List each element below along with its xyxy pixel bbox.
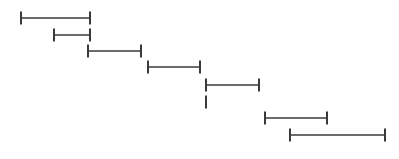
interval-chart bbox=[0, 0, 399, 159]
interval-bar-4 bbox=[148, 61, 200, 74]
interval-bar-5 bbox=[206, 79, 259, 92]
interval-bar-2 bbox=[54, 29, 90, 42]
interval-bar-8 bbox=[290, 129, 385, 142]
interval-bar-1 bbox=[21, 12, 90, 25]
interval-bar-3 bbox=[88, 45, 141, 58]
interval-bar-7 bbox=[265, 112, 327, 125]
